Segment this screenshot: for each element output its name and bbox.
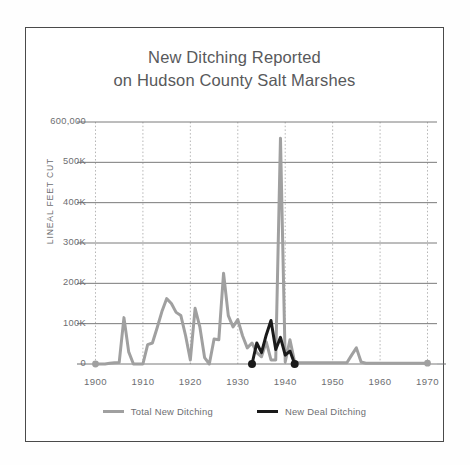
legend-swatch-total-new-ditching xyxy=(103,410,124,413)
y-axis-tick-300000: 300K xyxy=(40,237,86,247)
y-axis-tick-600000: 600,000 xyxy=(40,116,86,126)
y-axis-tick-100000: 100K xyxy=(40,318,86,328)
x-axis-tick-label-1910: 1910 xyxy=(120,376,166,387)
y-axis-tick-500000: 500K xyxy=(40,156,86,166)
legend-item-total-new-ditching[interactable]: Total New Ditching xyxy=(103,406,213,417)
plot-area xyxy=(0,0,470,465)
y-axis-tick-label-400000: 400K xyxy=(40,197,86,207)
y-axis-tick-label-500000: 500K xyxy=(40,156,86,166)
y-axis-tick-label-300000: 300K xyxy=(40,237,86,247)
x-axis-tick-label-1960: 1960 xyxy=(357,376,403,387)
x-axis-tick-label-1970: 1970 xyxy=(405,376,451,387)
chart-svg xyxy=(0,0,470,465)
series-endpoint-marker-1933 xyxy=(248,360,256,368)
y-axis-tick-label-600000: 600,000 xyxy=(40,116,86,126)
chart-figure: New Ditching Reported on Hudson County S… xyxy=(0,0,470,465)
series-endpoint-marker-1970 xyxy=(424,360,431,367)
grid-layer xyxy=(86,122,437,364)
legend-item-new-deal-ditching[interactable]: New Deal Ditching xyxy=(257,406,366,417)
chart-legend: Total New Ditching New Deal Ditching xyxy=(25,406,444,417)
x-axis-tick-label-1900: 1900 xyxy=(72,376,118,387)
x-axis-tick-label-1950: 1950 xyxy=(310,376,356,387)
x-axis-tick-label-1930: 1930 xyxy=(215,376,261,387)
y-axis-tick-200000: 200K xyxy=(40,277,86,287)
legend-label-new-deal-ditching: New Deal Ditching xyxy=(285,406,366,417)
legend-label-total-new-ditching: Total New Ditching xyxy=(131,406,213,417)
x-axis-tick-label-1920: 1920 xyxy=(167,376,213,387)
x-axis-tick-label-1940: 1940 xyxy=(262,376,308,387)
y-axis-tick-label-0: 0 xyxy=(40,358,86,368)
y-axis-tick-0: 0 xyxy=(40,358,86,368)
y-axis-tick-label-200000: 200K xyxy=(40,277,86,287)
legend-swatch-new-deal-ditching xyxy=(257,410,278,413)
series-line-total-new-ditching xyxy=(95,138,427,364)
series-endpoint-marker-1942 xyxy=(291,360,299,368)
y-axis-tick-label-100000: 100K xyxy=(40,318,86,328)
series-endpoint-marker-1900 xyxy=(92,361,99,368)
y-axis-tick-400000: 400K xyxy=(40,197,86,207)
